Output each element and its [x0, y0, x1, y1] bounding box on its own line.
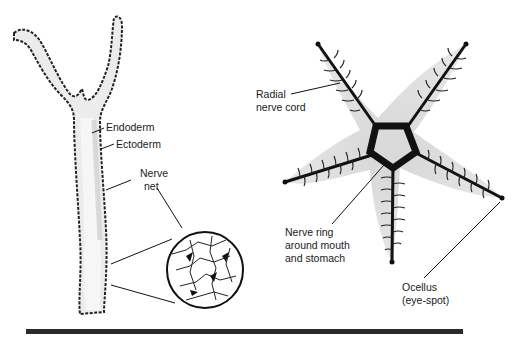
label-endoderm: Endoderm	[106, 121, 154, 134]
label-nerve-net: Nerve net	[140, 167, 168, 193]
label-ectoderm: Ectoderm	[116, 138, 161, 151]
bottom-rule	[26, 329, 463, 334]
nerve-net-magnified	[167, 232, 243, 308]
label-radial-nerve-cord: Radial nerve cord	[256, 88, 306, 114]
hydra-body	[14, 16, 122, 314]
label-nerve-ring: Nerve ring around mouth and stomach	[285, 226, 350, 265]
hydra-illustration	[14, 16, 182, 314]
label-ocellus: Ocellus (eye-spot)	[402, 281, 449, 307]
